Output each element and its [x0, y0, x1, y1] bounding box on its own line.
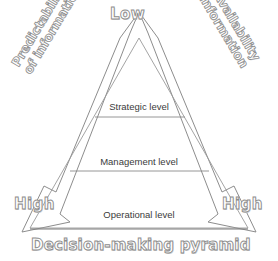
apex-label-low: Low: [110, 5, 145, 23]
pyramid-triangle: [30, 38, 248, 228]
decision-making-pyramid-diagram: Low High High Predictability of informat…: [0, 0, 278, 261]
diagram-caption: Decision-making pyramid: [31, 236, 251, 254]
level-label-strategic: Strategic level: [0, 101, 278, 112]
level-label-operational: Operational level: [0, 209, 278, 220]
level-label-management: Management level: [0, 156, 278, 167]
